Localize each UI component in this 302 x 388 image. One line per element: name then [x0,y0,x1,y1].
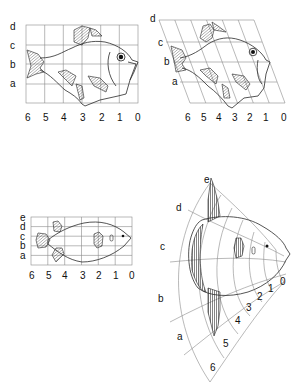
col-label-1: 1 [268,283,274,294]
col-label-2: 2 [99,112,105,123]
fish-outline [40,41,138,106]
col-label-6: 6 [210,362,216,373]
col-label-3: 3 [80,112,86,123]
col-label-2: 2 [247,112,253,123]
column-labels: 6 5 4 3 2 1 0 [29,270,135,281]
row-label-d: d [176,202,182,213]
row-label-b: b [164,56,170,67]
fins [171,22,250,98]
col-label-5: 5 [46,270,52,281]
row-label-a: a [20,250,26,261]
column-labels: 6 5 4 3 2 1 0 [185,112,287,123]
fish-transformation-figure: d c b a 6 5 4 3 2 1 0 [0,0,302,388]
fins [191,178,244,336]
column-labels: 6 5 4 3 2 1 0 [25,112,141,123]
row-label-a: a [10,78,16,89]
row-label-c: c [158,37,163,48]
col-label-2: 2 [96,270,102,281]
col-label-1: 1 [113,270,119,281]
panel-radial-sunfish: e d c b a 6 5 4 3 2 1 0 [158,174,290,382]
row-labels: e d c b a [20,212,26,261]
row-label-b: b [10,59,16,70]
column-labels: 6 5 4 3 2 1 0 [210,276,286,373]
col-label-1: 1 [263,112,269,123]
col-label-4: 4 [235,315,241,326]
row-label-c: c [10,40,15,51]
col-label-0: 0 [129,270,135,281]
col-label-4: 4 [61,112,67,123]
col-label-5: 5 [201,112,207,123]
panel-sheared-fish: d c b a 6 5 4 3 2 1 0 [150,13,287,123]
col-label-4: 4 [216,112,222,123]
col-label-3: 3 [246,302,252,313]
col-label-6: 6 [25,112,31,123]
col-label-0: 0 [135,112,141,123]
col-label-4: 4 [62,270,68,281]
col-label-5: 5 [43,112,49,123]
row-label-a: a [172,76,178,87]
col-label-6: 6 [29,270,35,281]
row-label-c: c [160,241,165,252]
col-label-1: 1 [117,112,123,123]
row-label-e: e [204,174,210,185]
col-label-3: 3 [232,112,238,123]
panel-rectangular-fish-2: e d c b a 6 5 4 3 2 1 0 [20,212,135,281]
col-label-5: 5 [223,338,229,349]
fins [27,26,108,100]
row-label-d: d [10,21,16,32]
col-label-0: 0 [281,112,287,123]
row-labels: d c b a [10,21,16,89]
col-label-6: 6 [185,112,191,123]
panel-rectangular-fish: d c b a 6 5 4 3 2 1 0 [10,21,141,123]
row-label-a: a [177,331,183,342]
row-label-d: d [150,13,156,24]
row-label-b: b [158,293,164,304]
col-label-0: 0 [280,276,286,287]
col-label-3: 3 [80,270,86,281]
col-label-2: 2 [257,291,263,302]
row-labels: e d c b a [158,174,210,342]
